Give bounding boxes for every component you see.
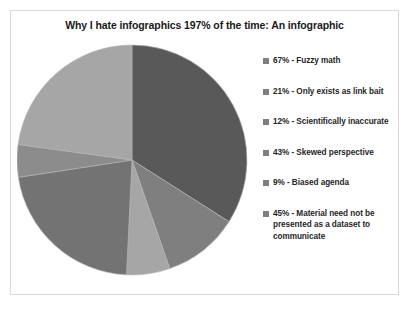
legend-item[interactable]: 45% - Material need not be presented as … <box>263 208 401 243</box>
legend-item-label: 45% - Material need not be presented as … <box>273 208 401 243</box>
legend-item[interactable]: 21% - Only exists as link bait <box>263 86 401 98</box>
legend-item[interactable]: 67% - Fuzzy math <box>263 55 401 67</box>
chart-frame: Why I hate infographics 197% of the time… <box>10 10 399 295</box>
legend-swatch-icon <box>263 150 269 156</box>
pie-chart-svg <box>17 43 267 291</box>
legend-item-label: 43% - Skewed perspective <box>273 147 374 159</box>
legend-swatch-icon <box>263 89 269 95</box>
legend-item-label: 67% - Fuzzy math <box>273 55 340 67</box>
chart-title: Why I hate infographics 197% of the time… <box>11 19 398 31</box>
legend-item-label: 9% - Biased agenda <box>273 177 349 189</box>
legend-swatch-icon <box>263 119 269 125</box>
pie-chart-plot-area <box>17 43 267 291</box>
legend-item[interactable]: 12% - Scientifically inaccurate <box>263 116 401 128</box>
chart-legend: 67% - Fuzzy math 21% - Only exists as li… <box>263 55 401 261</box>
legend-item-label: 21% - Only exists as link bait <box>273 86 383 98</box>
legend-swatch-icon <box>263 180 269 186</box>
legend-swatch-icon <box>263 58 269 64</box>
pie-slice[interactable] <box>18 160 132 275</box>
legend-swatch-icon <box>263 211 269 217</box>
legend-item-label: 12% - Scientifically inaccurate <box>273 116 388 128</box>
pie-slice[interactable] <box>18 45 132 160</box>
legend-item[interactable]: 9% - Biased agenda <box>263 177 401 189</box>
pie-slice-group <box>17 45 247 275</box>
legend-item[interactable]: 43% - Skewed perspective <box>263 147 401 159</box>
